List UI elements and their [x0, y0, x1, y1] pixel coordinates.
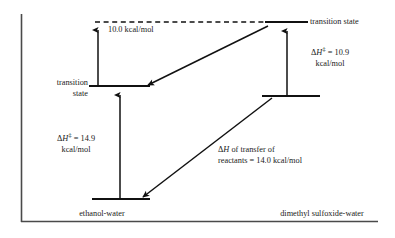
- diagram-canvas: [0, 0, 395, 238]
- label-solvent-dimethyl-sulfoxide-water: dimethyl sulfoxide-water: [259, 209, 385, 220]
- label-enthalpy-of-transfer: ΔH of transfer ofreactants = 14.0 kcal/m…: [218, 145, 378, 166]
- label-activation-enthalpy-ethanol-units: kcal/mol: [61, 145, 90, 154]
- label-transition-state-left-line1: transition: [57, 78, 88, 87]
- label-transition-state-left: transitionstate: [30, 78, 88, 99]
- label-activation-enthalpy-dmso-value: = 10.9: [326, 48, 349, 57]
- label-solvent-ethanol-water: ethanol-water: [59, 209, 145, 220]
- label-transition-state-right: transition state: [310, 17, 390, 28]
- label-enthalpy-of-transfer-line1: of transfer of: [229, 145, 274, 154]
- label-activation-enthalpy-dmso-units: kcal/mol: [315, 59, 344, 68]
- energy-level-diagram-figure: 10.0 kcal/mol transitionstate transition…: [0, 0, 395, 238]
- label-energy-gap-10p0: 10.0 kcal/mol: [108, 25, 188, 36]
- label-transition-state-left-line2: state: [73, 89, 88, 98]
- label-activation-enthalpy-ethanol-value: = 14.9: [72, 134, 95, 143]
- label-activation-enthalpy-ethanol-water: ΔH‡ = 14.9kcal/mol: [30, 134, 122, 155]
- label-enthalpy-of-transfer-line2: reactants = 14.0 kcal/mol: [218, 156, 302, 165]
- label-activation-enthalpy-dmso-water: ΔH‡ = 10.9kcal/mol: [294, 48, 366, 69]
